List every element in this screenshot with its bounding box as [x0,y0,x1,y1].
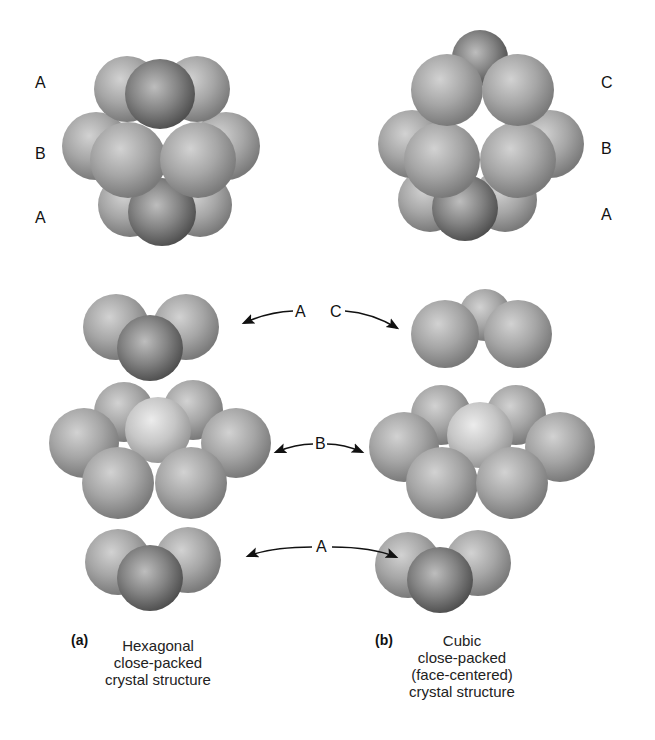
arrow-a-bottom-left-icon [248,547,312,556]
ccp-stack-label-top: C [601,75,613,91]
hcp-stack-label-bottom: A [35,210,46,226]
panel-b-caption-line-3: (face-centered) [392,666,532,683]
exploded-label-a-bottom: A [316,539,327,555]
ccp-stack-label-bottom: A [601,207,612,223]
panel-a-caption-line-2: close-packed [88,654,228,671]
panel-b-tag: (b) [375,632,393,648]
arrow-a-top-left-icon [244,311,293,323]
hcp-stack-label-top: A [35,75,46,91]
hcp-layer-b-middle [49,380,271,519]
exploded-label-b-middle: B [315,436,326,452]
arrow-b-right-icon [327,444,362,452]
exploded-label-c-top: C [330,304,342,320]
hcp-layer-a-bottom [85,527,221,611]
hcp-stacked-cluster [62,56,260,246]
panel-b-caption-line-1: Cubic [392,632,532,649]
arrow-b-left-icon [276,444,313,452]
panel-a-caption-line-3: crystal structure [88,671,228,688]
ccp-stack-label-middle: B [601,141,612,157]
ccp-stacked-cluster [378,30,584,241]
crystal-structure-diagram: A B A C B A A C B A (a) Hexagonal close-… [0,0,655,740]
panel-b-caption-line-2: close-packed [392,649,532,666]
arrow-c-top-right-icon [345,311,397,328]
panel-b-caption: Cubic close-packed (face-centered) cryst… [392,632,532,700]
panel-a-tag: (a) [71,632,88,648]
ccp-layer-a-bottom [375,530,511,613]
spheres-illustration [0,0,655,740]
exploded-label-a-top: A [295,304,306,320]
hcp-layer-a-top [83,294,219,381]
panel-a-caption-line-1: Hexagonal [88,637,228,654]
hcp-stack-label-middle: B [35,146,46,162]
panel-b-caption-line-4: crystal structure [392,683,532,700]
panel-a-caption: Hexagonal close-packed crystal structure [88,637,228,688]
ccp-layer-c-top [411,289,552,368]
ccp-layer-b-middle [369,385,595,519]
